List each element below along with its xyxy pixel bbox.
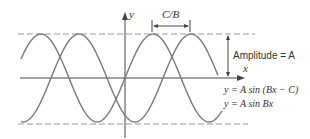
amplitude-label: Amplitude = A: [233, 51, 295, 61]
x-axis-arrow-icon: [237, 75, 245, 81]
shift-label: C/B: [162, 9, 179, 20]
y-axis-arrow-icon: [122, 12, 128, 20]
sine-phase-shift-diagram: [0, 0, 310, 139]
shift-arrow-right-icon: [184, 24, 189, 28]
y-axis-label: y: [129, 9, 134, 20]
curve-shifted-label: y = A sin (Bx − C): [224, 85, 298, 95]
curve-base-label: y = A sin Bx: [224, 99, 273, 109]
x-axis-label: x: [243, 63, 248, 74]
amplitude-arrow-up-icon: [226, 35, 230, 40]
shift-arrow-left-icon: [153, 24, 158, 28]
amplitude-arrow-down-icon: [226, 72, 230, 77]
